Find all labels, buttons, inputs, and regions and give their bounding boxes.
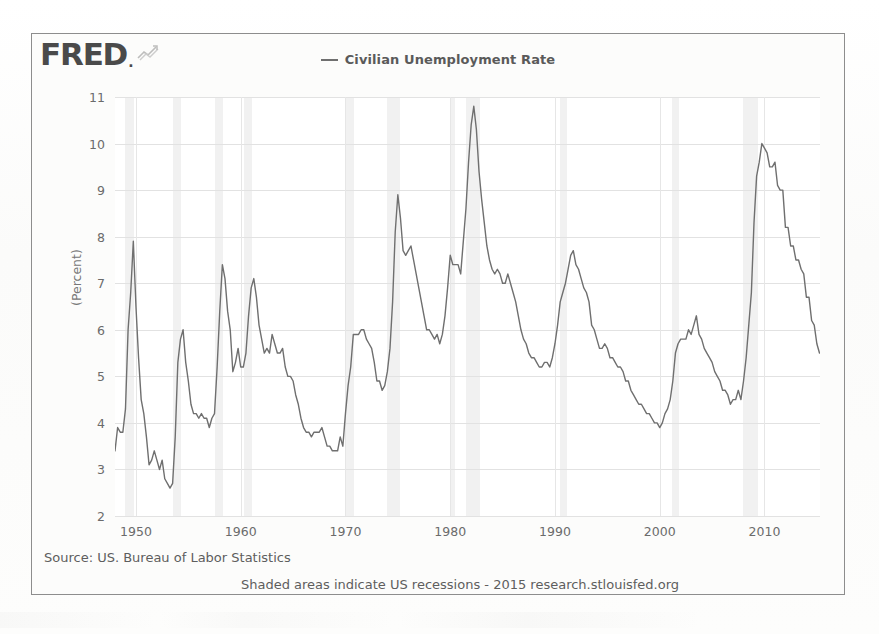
plot-area [115,97,820,516]
x-tick-label: 1970 [330,524,362,539]
y-tick-label: 5 [65,369,105,384]
footer-note: Shaded areas indicate US recessions - 20… [32,577,844,592]
trend-line-icon [136,43,166,65]
fred-wordmark: FRED [40,39,127,70]
legend-series-label: Civilian Unemployment Rate [345,52,556,67]
x-tick-label: 1980 [434,524,466,539]
unemployment-rate-line [115,97,820,516]
x-tick-label: 1950 [120,524,152,539]
fred-chart-frame: FRED . Civilian Unemployment Rate (Perce… [31,33,845,595]
x-tick-label: 2010 [749,524,781,539]
y-tick-label: 6 [65,322,105,337]
page-smudge [0,612,879,628]
x-tick-label: 1990 [539,524,571,539]
y-tick-label: 10 [65,136,105,151]
gridline-horizontal [115,516,820,517]
x-tick-label: 2000 [644,524,676,539]
y-tick-label: 4 [65,415,105,430]
y-tick-label: 9 [65,183,105,198]
y-tick-label: 3 [65,462,105,477]
fred-logo: FRED . [40,39,166,70]
y-tick-label: 2 [65,509,105,524]
y-tick-label: 8 [65,229,105,244]
source-text: Source: US. Bureau of Labor Statistics [44,550,291,565]
fred-wordmark-dot: . [128,54,133,70]
x-tick-label: 1960 [225,524,257,539]
y-tick-label: 11 [65,90,105,105]
y-tick-label: 7 [65,276,105,291]
legend-line-swatch [321,59,338,61]
